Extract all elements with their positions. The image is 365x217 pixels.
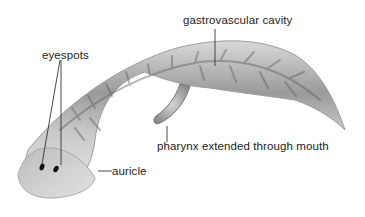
- planarian-body: [18, 41, 345, 198]
- pharynx: [154, 84, 190, 124]
- label-auricle: auricle: [112, 165, 147, 178]
- label-eyespots: eyespots: [42, 49, 89, 62]
- planarian-diagram: gastrovascular cavity eyespots pharynx e…: [0, 0, 365, 217]
- label-pharynx: pharynx extended through mouth: [157, 140, 329, 153]
- planarian-illustration: [0, 0, 365, 217]
- label-gastrovascular-cavity: gastrovascular cavity: [183, 14, 292, 27]
